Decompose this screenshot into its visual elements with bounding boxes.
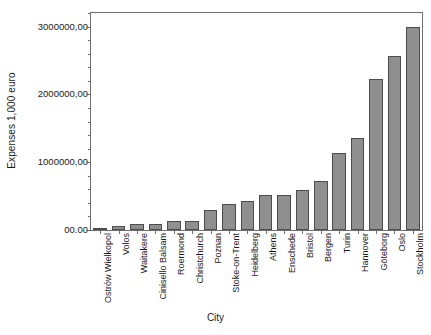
- x-axis-tick-label: Oslo: [397, 233, 407, 252]
- x-axis-title: City: [0, 312, 431, 323]
- x-axis-tick-label: Bergen: [323, 233, 333, 262]
- bar-series: [91, 13, 422, 230]
- y-axis-title: Expenses 1,000 euro: [0, 0, 22, 240]
- bar: [222, 204, 236, 230]
- x-axis-tick-label: Athens: [268, 233, 278, 261]
- x-axis-tick-label: Ostrów Wielkopol: [103, 233, 113, 303]
- x-axis-tick-label: Roermond: [176, 233, 186, 275]
- x-axis-tick-label: Enschede: [287, 233, 297, 273]
- bar: [332, 153, 346, 230]
- y-axis-major-tick: [86, 230, 91, 231]
- x-axis-tick-label: Cinisello Balsam: [158, 233, 168, 300]
- bar: [351, 138, 365, 230]
- bar: [259, 195, 273, 230]
- x-axis-tick-label: Stockholm: [415, 233, 425, 275]
- bar-chart-figure: Expenses 1,000 euro 00.001000000,0020000…: [0, 0, 431, 335]
- plot-area: [90, 12, 423, 231]
- y-axis-tick-label: 2000000,00: [22, 88, 88, 99]
- x-axis-tick-label: Waitakere: [139, 233, 149, 273]
- bar: [149, 224, 163, 230]
- bar: [296, 190, 310, 230]
- y-axis-tick-label: 00.00: [22, 224, 88, 235]
- x-axis-tick-labels: Ostrów WielkopolVolosWaitakereCinisello …: [90, 233, 423, 313]
- bar: [277, 195, 291, 230]
- x-axis-tick-label: Heidelberg: [250, 233, 260, 277]
- x-axis-tick-label: Bristol: [305, 233, 315, 258]
- x-axis-tick-label: Hannover: [360, 233, 370, 272]
- x-axis-tick-label: Turin: [342, 233, 352, 253]
- x-axis-tick-label: Volos: [121, 233, 131, 255]
- x-axis-tick-label: Poznan: [213, 233, 223, 264]
- bar: [185, 221, 199, 230]
- y-axis-tick-label: 3000000,00: [22, 20, 88, 31]
- bar: [204, 210, 218, 230]
- bar: [112, 226, 126, 230]
- bar: [93, 228, 107, 230]
- y-axis-title-text: Expenses 1,000 euro: [6, 72, 17, 168]
- x-axis-tick-label: Christchurch: [195, 233, 205, 284]
- bar: [167, 221, 181, 230]
- bar: [241, 201, 255, 230]
- bar: [406, 27, 420, 230]
- y-axis-tick-label: 1000000,00: [22, 156, 88, 167]
- bar: [130, 224, 144, 230]
- bar: [388, 56, 402, 230]
- bar: [314, 181, 328, 231]
- x-axis-tick-label: Göteborg: [379, 233, 389, 271]
- x-axis-tick-label: Stoke-on-Trent: [231, 233, 241, 293]
- bar: [369, 79, 383, 230]
- y-axis-tick-labels: 00.001000000,002000000,003000000,00: [20, 0, 88, 335]
